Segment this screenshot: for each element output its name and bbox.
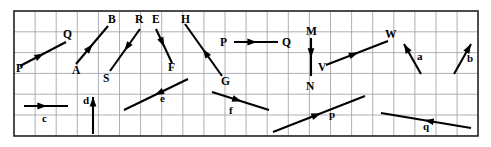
label-G: G [221,75,230,87]
vector-labels: PQABRSEFHGPQMNVWabcdefpq [16,13,473,132]
vector-MN [308,38,315,76]
vector-MN-arrowhead [308,48,315,58]
vector-VW-arrowhead [348,53,358,60]
label-Q2: Q [282,36,291,48]
label-F: F [168,61,175,73]
label-H: H [181,13,190,25]
label-q: q [423,120,430,132]
label-A: A [72,64,81,76]
vector-c-arrowhead [37,103,47,110]
label-f: f [229,104,233,116]
label-E: E [152,13,160,25]
vector-d-arrowhead [90,97,97,107]
label-d: d [83,94,89,106]
vector-arrows [20,24,471,134]
vector-PQ-middle-arrowhead [247,39,257,46]
label-V: V [318,61,327,73]
label-p: p [329,108,335,120]
label-P2: P [220,36,227,48]
vector-d [90,97,97,134]
vector-EF-arrowhead [157,37,164,47]
vector-RS [110,29,140,71]
diagram-canvas: PQABRSEFHGPQMNVWabcdefpq [0,0,491,147]
vector-VW [326,41,388,65]
label-N: N [306,80,315,92]
vector-f [212,92,269,110]
label-S: S [103,72,109,84]
label-P1: P [16,62,23,74]
vector-PQ-upper-left [20,42,66,66]
vector-PQ-middle [234,39,278,46]
vector-c [24,103,68,110]
label-b: b [467,52,473,64]
vector-f-arrowhead [232,95,242,101]
label-e: e [160,92,165,104]
vector-p-arrowhead [311,113,321,120]
vector-EF [156,29,172,63]
label-R: R [135,13,144,25]
label-M: M [306,25,317,37]
label-Q1: Q [63,28,72,40]
label-B: B [108,13,116,25]
vector-diagram-svg: PQABRSEFHGPQMNVWabcdefpq [0,0,491,147]
label-W: W [385,28,397,40]
label-a: a [417,50,423,62]
label-c: c [42,112,47,124]
